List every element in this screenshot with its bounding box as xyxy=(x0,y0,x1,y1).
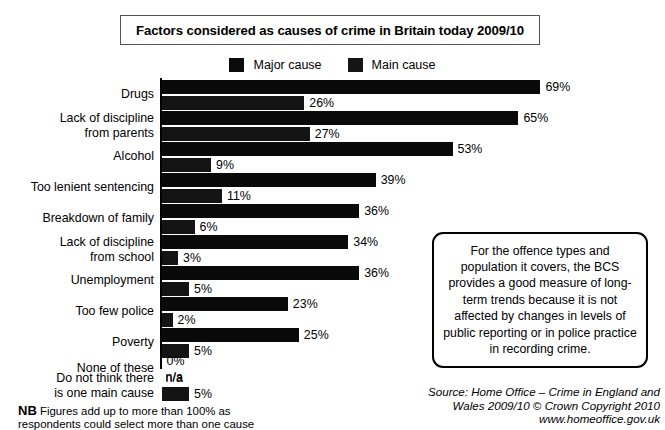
source-line-2: Wales 2009/10 © Crown Copyright 2010 xyxy=(453,399,660,412)
chart-bar-wrapper: 25% xyxy=(162,328,329,342)
chart-row-bars: n/a5% xyxy=(162,371,212,401)
chart-bar-main-cause xyxy=(162,96,305,110)
chart-row-label: Too lenient sentencing xyxy=(0,180,154,195)
chart-bar-value: 36% xyxy=(364,204,389,218)
chart-bar-wrapper: 69% xyxy=(162,80,571,94)
chart-bar-value: n/a xyxy=(166,371,183,385)
chart-bar-major-cause xyxy=(162,80,541,94)
chart-bar-wrapper: 2% xyxy=(162,313,318,327)
chart-row-label: Breakdown of family xyxy=(0,211,154,226)
chart-bar-value: 26% xyxy=(309,96,334,110)
chart-row-label: Alcohol xyxy=(0,149,154,164)
footnote-nb-label: NB xyxy=(18,403,37,418)
source-line-1: Source: Home Office – Crime in England a… xyxy=(428,385,660,398)
legend-label-major-cause: Major cause xyxy=(253,58,321,72)
chart-bar-major-cause xyxy=(162,266,360,280)
chart-bar-main-cause xyxy=(162,189,222,203)
chart-row-label: Lack of discipline from school xyxy=(0,235,154,264)
page-title: Factors considered as causes of crime in… xyxy=(136,23,524,38)
chart-bar-value: 53% xyxy=(458,142,483,156)
chart-row-bars: 36%6% xyxy=(162,204,389,234)
chart-bar-wrapper: 65% xyxy=(162,111,549,125)
chart-bar-major-cause xyxy=(162,173,376,187)
chart-row-label: Drugs xyxy=(0,87,154,102)
chart-bar-wrapper: 53% xyxy=(162,142,483,156)
chart-bar-value: 34% xyxy=(353,235,378,249)
chart-bar-value: 5% xyxy=(194,387,212,401)
chart-row-bars: 39%11% xyxy=(162,173,406,203)
chart-bar-main-cause xyxy=(162,220,195,234)
chart-bar-main-cause xyxy=(162,282,189,296)
callout-text: For the offence types and population it … xyxy=(442,243,638,358)
chart-bar-value: 5% xyxy=(194,344,212,358)
callout-box: For the offence types and population it … xyxy=(432,232,648,368)
legend-label-main-cause: Main cause xyxy=(372,58,436,72)
chart-bar-wrapper: n/a xyxy=(162,371,212,385)
footnote-text-line-2: respondents could select more than one c… xyxy=(18,418,254,430)
chart-bar-wrapper: 9% xyxy=(162,158,483,172)
chart-row-label: Lack of discipline from parents xyxy=(0,111,154,140)
legend-item-main-cause: Main cause xyxy=(348,58,436,72)
source-url[interactable]: www.homeoffice.gov.uk xyxy=(398,412,660,426)
chart-bar-major-cause xyxy=(162,328,299,342)
chart-bar-value: 5% xyxy=(194,282,212,296)
chart-bar-value: 3% xyxy=(183,251,201,265)
chart-row-label: Do not think there is one main cause xyxy=(0,371,154,400)
chart-bar-value: 11% xyxy=(227,189,251,203)
chart-bar-wrapper: 3% xyxy=(162,251,378,265)
chart-bar-major-cause xyxy=(162,204,360,218)
chart-row-label: Poverty xyxy=(0,335,154,350)
chart-bar-wrapper: 0% xyxy=(162,354,185,368)
chart-bar-value: 39% xyxy=(381,173,406,187)
chart-bar-value: 25% xyxy=(304,328,329,342)
chart-legend: Major cause Main cause xyxy=(0,58,665,72)
chart-bar-wrapper: 5% xyxy=(162,344,329,358)
chart-bar-value: 36% xyxy=(364,266,389,280)
chart-row-bars: 53%9% xyxy=(162,142,483,172)
footnote: NB Figures add up to more than 100% as r… xyxy=(18,404,348,430)
chart-bar-main-cause xyxy=(162,158,211,172)
chart-bar-main-cause xyxy=(162,127,310,141)
chart-row-label: Too few police xyxy=(0,304,154,319)
chart-bar-main-cause xyxy=(162,251,178,265)
chart-bar-main-cause xyxy=(162,313,173,327)
chart-row-bars: 65%27% xyxy=(162,111,549,141)
chart-bar-major-cause xyxy=(162,142,453,156)
chart-bar-major-cause xyxy=(162,111,519,125)
chart-row-label: Unemployment xyxy=(0,273,154,288)
chart-row-bars: 25%5% xyxy=(162,328,329,358)
chart-bar-value: 9% xyxy=(216,158,234,172)
chart-bar-main-cause xyxy=(162,387,189,401)
chart-bar-value: 0% xyxy=(167,354,185,368)
chart-title-box: Factors considered as causes of crime in… xyxy=(120,15,540,45)
chart-bar-wrapper: 34% xyxy=(162,235,378,249)
chart-bar-wrapper: 5% xyxy=(162,387,212,401)
chart-bar-wrapper: 5% xyxy=(162,282,389,296)
chart-bar-wrapper: 26% xyxy=(162,96,571,110)
chart-row-bars: 34%3% xyxy=(162,235,378,265)
chart-bar-wrapper: 39% xyxy=(162,173,406,187)
chart-bar-wrapper: 36% xyxy=(162,204,389,218)
chart-bar-wrapper: 36% xyxy=(162,266,389,280)
chart-bar-wrapper: 27% xyxy=(162,127,549,141)
legend-swatch-major-icon xyxy=(229,58,244,72)
chart-bar-wrapper: 23% xyxy=(162,297,318,311)
legend-item-major-cause: Major cause xyxy=(229,58,321,72)
chart-bar-value: 69% xyxy=(545,80,570,94)
chart-bar-major-cause xyxy=(162,297,288,311)
chart-bar-value: 27% xyxy=(315,127,340,141)
footnote-text: Figures add up to more than 100% as xyxy=(37,405,231,417)
chart-bar-value: 23% xyxy=(293,297,318,311)
chart-bar-wrapper: 6% xyxy=(162,220,389,234)
legend-swatch-main-icon xyxy=(348,58,363,72)
chart-bar-value: 2% xyxy=(178,313,196,327)
chart-row-bars: 36%5% xyxy=(162,266,389,296)
chart-bar-major-cause xyxy=(162,235,349,249)
chart-row-bars: 23%2% xyxy=(162,297,318,327)
chart-row-bars: 69%26% xyxy=(162,80,571,110)
chart-bar-value: 6% xyxy=(200,220,218,234)
chart-bar-value: 65% xyxy=(523,111,548,125)
source-credit: Source: Home Office – Crime in England a… xyxy=(398,385,660,426)
chart-bar-wrapper: 11% xyxy=(162,189,406,203)
